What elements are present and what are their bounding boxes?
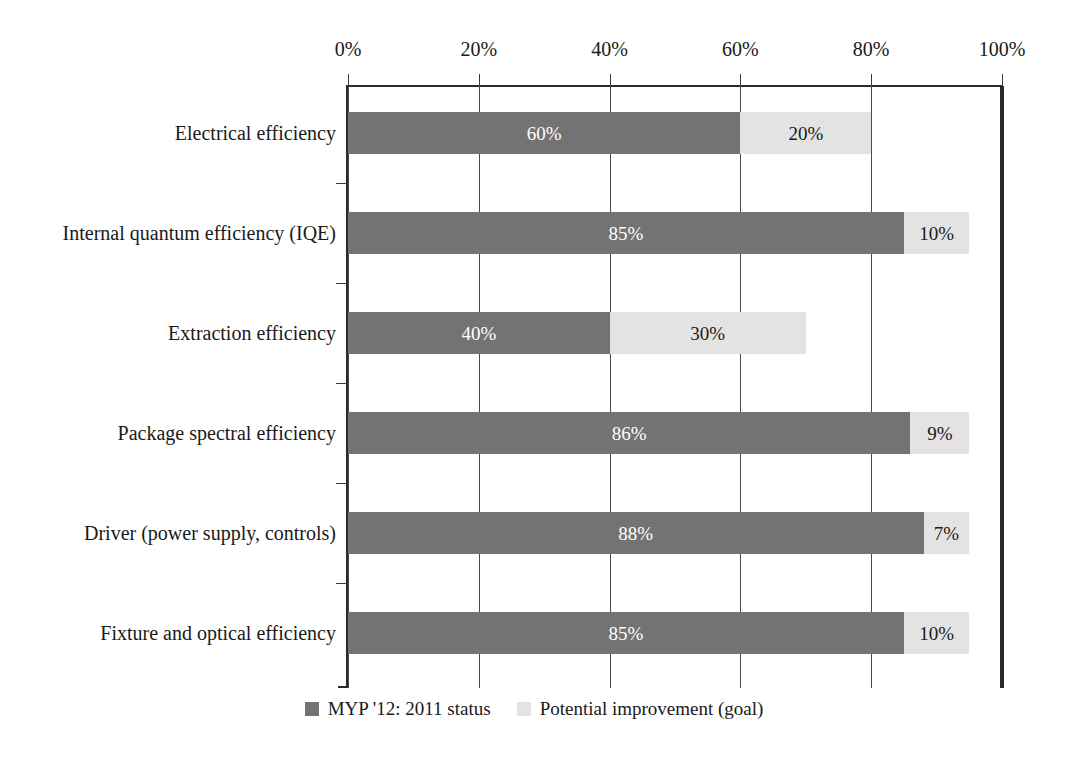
x-tick-label-60: 60% [722,38,759,60]
bar-row: 86%9% [348,412,1002,454]
bar-segment-status: 40% [348,312,610,354]
legend-label: MYP '12: 2011 status [328,698,491,720]
legend-item[interactable]: Potential improvement (goal) [517,698,764,720]
bar-segment-status: 88% [348,512,924,554]
bar-segment-status: 86% [348,412,910,454]
bar-segment-goal: 20% [740,112,871,154]
bar-segment-status: 85% [348,612,904,654]
x-tick-40 [610,74,611,86]
gridline-80 [871,86,872,688]
x-tick-100 [1002,74,1003,86]
x-tick-label-100: 100% [979,38,1026,60]
bar-segment-goal: 30% [610,312,806,354]
bar-row: 88%7% [348,512,1002,554]
y-tick [336,483,348,484]
y-tick [336,183,348,184]
category-label: Package spectral efficiency [118,422,336,444]
x-tick-label-80: 80% [853,38,890,60]
gridline-60 [740,86,741,688]
x-tick-60 [740,74,741,86]
bar-segment-goal: 10% [904,212,969,254]
x-tick-label-20: 20% [460,38,497,60]
x-tick-0 [348,74,349,86]
bar-segment-goal: 10% [904,612,969,654]
bar-row: 60%20% [348,112,1002,154]
gridline-0 [348,86,349,688]
y-axis-foot [338,686,348,688]
bar-segment-status: 60% [348,112,740,154]
legend-label: Potential improvement (goal) [540,698,764,720]
gridline-20 [479,86,480,688]
category-label: Fixture and optical efficiency [100,622,336,644]
bar-segment-goal: 9% [910,412,969,454]
bar-row: 85%10% [348,612,1002,654]
category-label: Extraction efficiency [168,322,336,344]
category-label: Driver (power supply, controls) [84,522,336,544]
x-tick-label-40: 40% [591,38,628,60]
bar-segment-goal: 7% [924,512,970,554]
bar-segment-status: 85% [348,212,904,254]
x-tick-label-0: 0% [335,38,362,60]
legend-item[interactable]: MYP '12: 2011 status [305,698,491,720]
plot-area: 60%20%85%10%40%30%86%9%88%7%85%10% [348,86,1002,688]
bar-row: 40%30% [348,312,1002,354]
stacked-bar-chart: 0%20%40%60%80%100% 60%20%85%10%40%30%86%… [0,0,1068,768]
gridline-100 [1002,86,1004,688]
y-tick [336,383,348,384]
x-tick-80 [871,74,872,86]
legend-swatch-goal [517,702,531,716]
y-tick [336,283,348,284]
gridline-40 [610,86,611,688]
legend-swatch-status [305,702,319,716]
category-label: Internal quantum efficiency (IQE) [63,222,336,244]
bar-row: 85%10% [348,212,1002,254]
chart-legend: MYP '12: 2011 statusPotential improvemen… [0,698,1068,720]
category-label: Electrical efficiency [175,122,336,144]
y-tick [336,583,348,584]
x-tick-20 [479,74,480,86]
